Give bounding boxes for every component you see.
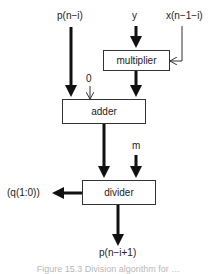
multiplier-block: multiplier	[103, 50, 170, 71]
input-label-p: p(n−i)	[57, 10, 83, 22]
input-label-y: y	[132, 10, 137, 22]
input-label-x: x(n−1−i)	[166, 10, 203, 22]
input-label-m: m	[132, 140, 140, 152]
adder-block: adder	[62, 99, 146, 124]
diagram-connections	[0, 0, 217, 274]
output-label-p-next: p(n−i+1)	[99, 247, 136, 259]
divider-block: divider	[82, 180, 156, 205]
output-label-q: (q(1:0))	[7, 187, 40, 199]
x-to-multiplier-arrow	[170, 26, 182, 61]
figure-caption: Figure 15.3 Division algorithm for …	[0, 264, 217, 274]
input-label-zero: 0	[86, 73, 92, 85]
